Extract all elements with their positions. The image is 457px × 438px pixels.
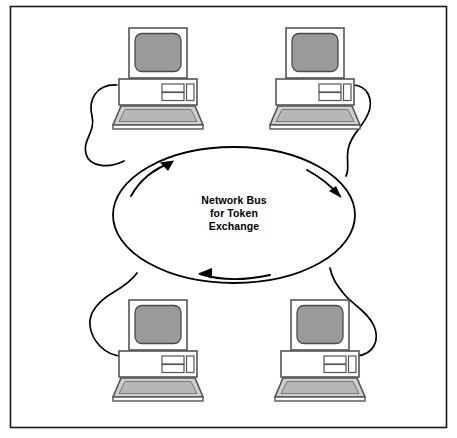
diagram-canvas: Network Bus for Token Exchange — [0, 0, 457, 438]
network-diagram: Network Bus for Token Exchange — [0, 0, 457, 438]
bus-label-line-2: for Token — [210, 207, 258, 219]
bus-label-line-1: Network Bus — [201, 194, 266, 206]
network-bus-label: Network Bus for Token Exchange — [201, 194, 266, 232]
bus-label-line-3: Exchange — [209, 220, 259, 232]
